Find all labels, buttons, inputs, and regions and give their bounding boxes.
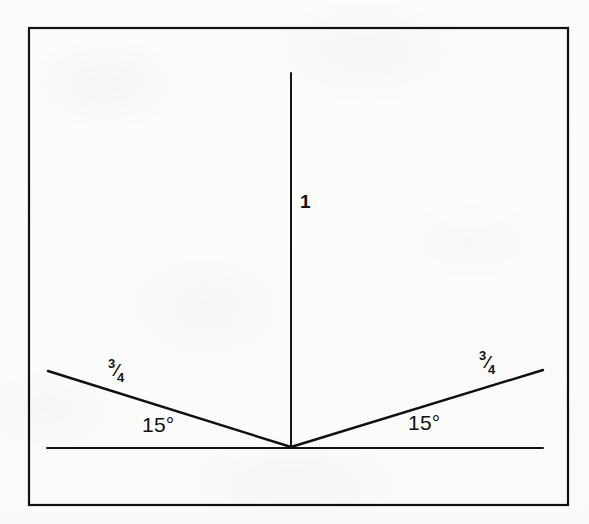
- fraction-numerator: 3: [108, 356, 115, 371]
- right-slanted-ray: [291, 370, 543, 447]
- diagram-canvas: 1 3⁄4 3⁄4 15° 15°: [0, 0, 589, 524]
- fraction-denominator: 4: [488, 362, 495, 377]
- vertical-length-label: 1: [300, 192, 311, 211]
- right-angle-label: 15°: [408, 412, 440, 433]
- diagram-vector-layer: [0, 0, 589, 524]
- fraction-denominator: 4: [117, 370, 124, 385]
- fraction-three-quarters: 3⁄4: [108, 358, 125, 382]
- left-angle-label: 15°: [142, 414, 174, 435]
- fraction-three-quarters: 3⁄4: [479, 350, 496, 374]
- outer-frame-border: [29, 28, 568, 505]
- left-side-length-label: 3⁄4: [108, 358, 125, 382]
- fraction-numerator: 3: [479, 348, 486, 363]
- right-side-length-label: 3⁄4: [479, 350, 496, 374]
